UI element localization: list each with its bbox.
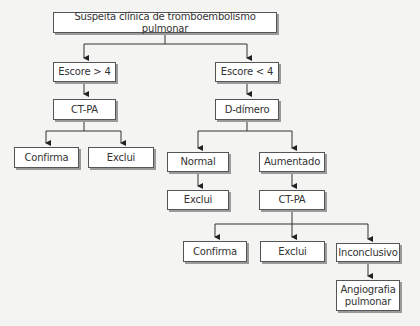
node-exclui-left: Exclui [88, 147, 154, 168]
node-ctpa-left: CT-PA [53, 99, 116, 120]
node-escore-low: Escore < 4 [215, 62, 279, 82]
node-ctpa-right: CT-PA [259, 190, 325, 210]
node-inconclusivo: Inconclusivo [336, 243, 400, 262]
node-aumentado: Aumentado [259, 152, 325, 172]
node-exclui-right: Exclui [260, 241, 325, 262]
node-ddimero: D-dímero [215, 99, 279, 120]
node-angiografia: Angiografia pulmonar [336, 280, 400, 311]
node-escore-high: Escore > 4 [53, 62, 116, 82]
node-normal: Normal [167, 152, 229, 172]
node-exclui-normal: Exclui [167, 190, 229, 210]
node-confirma-right: Confirma [183, 241, 247, 262]
flowchart: Suspeita clínica de tromboembolismo pulm… [0, 0, 420, 326]
node-root: Suspeita clínica de tromboembolismo pulm… [53, 12, 277, 33]
node-confirma-left: Confirma [14, 147, 79, 168]
